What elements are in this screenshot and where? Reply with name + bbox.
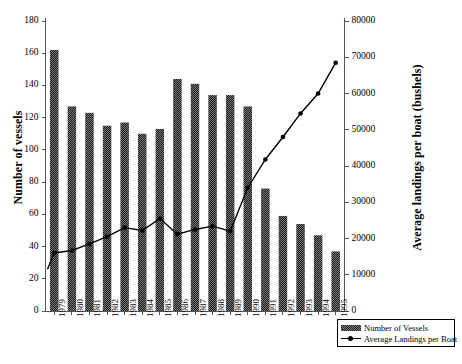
x-axis-tick-label: 1983 (129, 299, 138, 317)
bar (173, 79, 182, 311)
bar (261, 189, 270, 311)
y-axis-right-tick-label: 40000 (352, 161, 376, 171)
x-axis-tick-label: 1984 (146, 299, 155, 317)
y-axis-left-tick-label: 160 (0, 48, 39, 58)
y-axis-right-tick-label: 30000 (352, 197, 376, 207)
line-data-point (210, 224, 215, 229)
x-axis-tick-label: 1989 (234, 299, 243, 317)
line-data-point (122, 225, 127, 230)
bar-series (50, 50, 340, 311)
line-data-point (245, 185, 250, 190)
y-axis-right-tick-label: 80000 (352, 16, 376, 26)
legend-item-vessels: Number of Vessels (341, 322, 451, 333)
line-data-point (175, 232, 180, 237)
x-axis-tick-label: 1988 (217, 299, 226, 317)
x-axis-tick-label: 1980 (76, 299, 85, 317)
line-data-point (140, 228, 145, 233)
y-axis-left-tick-label: 100 (0, 145, 39, 155)
y-axis-right-tick-label: 0 (352, 306, 357, 316)
x-axis-tick-label: 1994 (322, 299, 331, 317)
legend-item-landings: Average Landings per Boat (341, 333, 451, 344)
bar (120, 123, 128, 312)
y-axis-left-tick-label: 40 (0, 242, 39, 252)
bar (244, 106, 253, 311)
bar (279, 216, 288, 311)
plot-area (0, 0, 462, 364)
y-axis-left-tick-label: 120 (0, 113, 39, 123)
x-axis-tick-label: 1982 (111, 299, 120, 317)
line-data-point (193, 227, 198, 232)
bar (226, 95, 235, 311)
y-axis-left-tick-label: 140 (0, 80, 39, 90)
chart-legend: Number of Vessels Average Landings per B… (337, 319, 455, 347)
bar (208, 95, 217, 311)
x-axis-tick-label: 1995 (340, 299, 349, 317)
y-axis-right-tick-label: 10000 (352, 270, 376, 280)
x-axis-tick-label: 1987 (199, 299, 208, 317)
line-data-point (158, 216, 163, 221)
x-axis-tick-label: 1990 (252, 299, 261, 317)
bar (191, 84, 200, 311)
x-axis-tick-label: 1979 (58, 299, 67, 317)
y-axis-right-tick-label: 60000 (352, 89, 376, 99)
line-data-point (228, 229, 233, 234)
y-axis-left-tick-label: 0 (0, 306, 39, 316)
chart-figure: Number of vessels Average landings per b… (0, 0, 462, 364)
bar-swatch-icon (341, 325, 361, 331)
line-data-point (298, 111, 303, 116)
y-axis-left-tick-label: 80 (0, 177, 39, 187)
y-axis-right-tick-label: 50000 (352, 125, 376, 135)
bar (85, 113, 94, 311)
legend-label-vessels: Number of Vessels (364, 323, 428, 333)
y-axis-left-tick-label: 180 (0, 16, 39, 26)
y-axis-right-tick-label: 20000 (352, 234, 376, 244)
legend-label-landings: Average Landings per Boat (364, 334, 457, 344)
line-marker-icon (341, 335, 361, 342)
line-data-point (52, 251, 57, 256)
bar (296, 224, 305, 311)
bar (50, 50, 59, 311)
y-axis-left-tick-label: 60 (0, 209, 39, 219)
x-axis-tick-label: 1991 (269, 299, 278, 317)
x-axis-tick-label: 1986 (181, 299, 190, 317)
line-data-point (87, 242, 92, 247)
x-axis-tick-label: 1985 (164, 299, 173, 317)
y-axis-left-tick-label: 20 (0, 274, 39, 284)
bar (103, 126, 112, 311)
x-axis-tick-label: 1981 (93, 299, 102, 317)
bar (68, 106, 77, 311)
line-data-point (333, 60, 338, 65)
y-axis-right-tick-label: 70000 (352, 52, 376, 62)
line-data-point (70, 248, 75, 253)
x-axis-tick-label: 1993 (305, 299, 314, 317)
x-axis-tick-label: 1992 (287, 299, 296, 317)
line-data-point (281, 135, 286, 140)
bar (138, 134, 147, 311)
line-data-point (263, 157, 268, 162)
line-data-point (105, 234, 110, 239)
line-data-point (316, 91, 321, 96)
